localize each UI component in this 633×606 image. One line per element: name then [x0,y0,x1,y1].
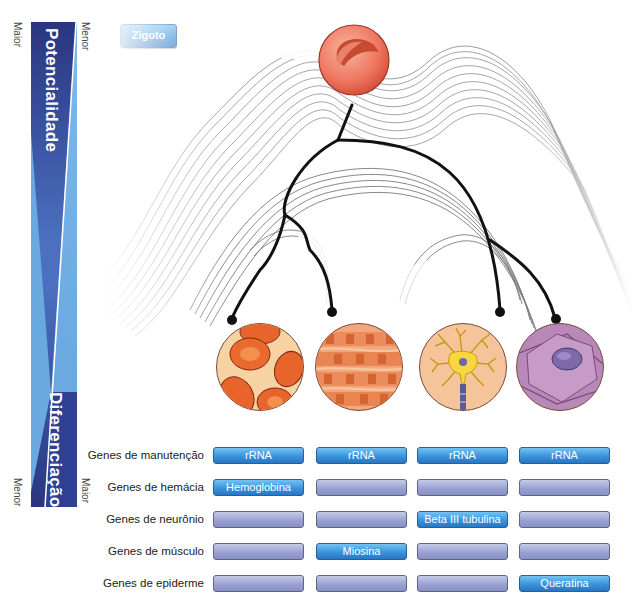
potency-low-label: Menor [80,22,91,50]
gene-cell-queratina[interactable]: Queratina [519,575,610,592]
gene-cell-rrna-hemacia[interactable]: rRNA [213,447,304,464]
gene-row-label: Genes de neurônio [106,510,204,528]
gene-row-label: Genes de epiderme [103,574,204,592]
gene-cell-empty[interactable] [213,511,304,528]
gene-cell-empty[interactable] [519,543,610,560]
epidermal-cell-illustration [516,323,604,411]
red-blood-cells-illustration [216,323,304,411]
gene-cell-miosina[interactable]: Miosina [316,543,407,560]
gene-row-neuronio: Genes de neurônio Beta III tubulina [0,510,633,530]
gene-cell-empty[interactable] [417,575,508,592]
gene-row-label: Genes de hemácia [107,478,204,496]
gene-cell-empty[interactable] [519,511,610,528]
gene-row-epiderme: Genes de epiderme Queratina [0,574,633,594]
gene-cell-beta-iii-tubulina[interactable]: Beta III tubulina [417,511,508,528]
gene-cell-empty[interactable] [316,479,407,496]
gene-row-label: Genes de músculo [108,542,204,560]
zygote-cell-illustration [319,25,389,95]
neuron-illustration [419,323,507,411]
potency-label: Potencialidade [41,28,61,152]
gene-cell-empty[interactable] [316,575,407,592]
gene-cell-empty[interactable] [213,543,304,560]
gene-row-musculo: Genes de músculo Miosina [0,542,633,562]
gene-row-hemacia: Genes de hemácia Hemoglobina [0,478,633,498]
gene-cell-rrna-neuronio[interactable]: rRNA [417,447,508,464]
gene-cell-hemoglobina[interactable]: Hemoglobina [213,479,304,496]
gene-cell-rrna-musculo[interactable]: rRNA [316,447,407,464]
muscle-fibers-illustration [315,323,403,411]
gene-row-label: Genes de manutenção [88,446,204,464]
potency-high-label: Maior [12,22,23,47]
gene-cell-empty[interactable] [213,575,304,592]
gene-cell-empty[interactable] [519,479,610,496]
gene-row-maintenance: Genes de manutenção rRNA rRNA rRNA rRNA [0,446,633,466]
gene-cell-rrna-epiderme[interactable]: rRNA [519,447,610,464]
gene-cell-empty[interactable] [316,511,407,528]
gene-cell-empty[interactable] [417,479,508,496]
gene-cell-empty[interactable] [417,543,508,560]
epigenetic-landscape [100,0,633,345]
